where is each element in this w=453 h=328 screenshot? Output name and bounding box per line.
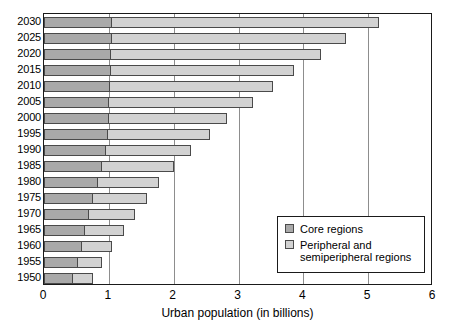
- bar-segment-peripheral: [110, 65, 294, 76]
- bar-segment-peripheral: [88, 209, 135, 220]
- bar-row: [44, 97, 253, 108]
- bar-segment-core: [44, 257, 78, 268]
- y-tick-label-2030: 2030: [0, 16, 41, 27]
- y-tick-label-1960: 1960: [0, 240, 41, 251]
- bar-row: [44, 273, 93, 284]
- bar-segment-peripheral: [110, 49, 321, 60]
- bar-segment-core: [44, 113, 109, 124]
- x-tick-label-4: 4: [299, 288, 306, 302]
- bar-segment-core: [44, 145, 106, 156]
- y-tick-label-2010: 2010: [0, 80, 41, 91]
- bar-row: [44, 17, 379, 28]
- x-tick-label-1: 1: [104, 288, 111, 302]
- bar-segment-peripheral: [77, 257, 103, 268]
- bar-row: [44, 257, 102, 268]
- bar-row: [44, 161, 174, 172]
- x-tick-label-6: 6: [429, 288, 436, 302]
- bar-segment-peripheral: [108, 97, 252, 108]
- y-tick-label-1975: 1975: [0, 192, 41, 203]
- bar-segment-peripheral: [109, 81, 273, 92]
- y-tick-label-1950: 1950: [0, 272, 41, 283]
- bar-segment-peripheral: [72, 273, 92, 284]
- bar-row: [44, 113, 227, 124]
- bar-segment-peripheral: [105, 145, 192, 156]
- bar-row: [44, 65, 294, 76]
- legend-label: Peripheral and semiperipheral regions: [300, 239, 411, 263]
- bar-row: [44, 225, 124, 236]
- y-axis-labels: 1950195519601965197019751980198519901995…: [0, 13, 41, 285]
- bar-row: [44, 193, 147, 204]
- chart-container: 1950195519601965197019751980198519901995…: [0, 0, 453, 328]
- legend-item: Peripheral and semiperipheral regions: [285, 239, 424, 263]
- y-tick-label-2025: 2025: [0, 32, 41, 43]
- y-tick-label-1980: 1980: [0, 176, 41, 187]
- legend-item: Core regions: [285, 223, 424, 235]
- legend-label: Core regions: [300, 223, 363, 235]
- bar-row: [44, 177, 159, 188]
- bar-segment-core: [44, 49, 111, 60]
- bar-segment-peripheral: [107, 129, 210, 140]
- x-axis-title: Urban population (in billions): [43, 306, 432, 320]
- bar-segment-peripheral: [97, 177, 159, 188]
- bar-segment-peripheral: [108, 113, 227, 124]
- y-tick-label-2000: 2000: [0, 112, 41, 123]
- y-tick-label-1990: 1990: [0, 144, 41, 155]
- bar-segment-core: [44, 225, 85, 236]
- bar-segment-core: [44, 65, 111, 76]
- bar-segment-peripheral: [92, 193, 147, 204]
- bar-segment-peripheral: [111, 33, 346, 44]
- bar-segment-core: [44, 273, 73, 284]
- bar-segment-peripheral: [111, 17, 379, 28]
- bar-segment-core: [44, 209, 89, 220]
- bar-segment-core: [44, 193, 93, 204]
- x-tick-label-3: 3: [234, 288, 241, 302]
- bar-segment-core: [44, 17, 112, 28]
- x-tick-label-0: 0: [40, 288, 47, 302]
- y-tick-label-1970: 1970: [0, 208, 41, 219]
- bar-segment-peripheral: [101, 161, 173, 172]
- bar-row: [44, 49, 321, 60]
- x-axis-labels: 0123456: [43, 288, 432, 304]
- legend-swatch-periph: [285, 240, 294, 249]
- legend-swatch-core: [285, 224, 294, 233]
- bar-row: [44, 129, 210, 140]
- bar-row: [44, 81, 273, 92]
- bar-row: [44, 241, 112, 252]
- bar-segment-core: [44, 97, 109, 108]
- bar-segment-core: [44, 177, 98, 188]
- bar-segment-peripheral: [81, 241, 112, 252]
- legend: Core regionsPeripheral and semiperiphera…: [277, 216, 425, 273]
- bar-row: [44, 209, 135, 220]
- bar-row: [44, 33, 346, 44]
- y-tick-label-1965: 1965: [0, 224, 41, 235]
- bar-segment-peripheral: [84, 225, 123, 236]
- x-tick-label-2: 2: [169, 288, 176, 302]
- y-tick-label-1985: 1985: [0, 160, 41, 171]
- y-tick-label-2005: 2005: [0, 96, 41, 107]
- bar-segment-core: [44, 81, 110, 92]
- bar-segment-core: [44, 33, 112, 44]
- y-tick-label-1995: 1995: [0, 128, 41, 139]
- x-tick-label-5: 5: [364, 288, 371, 302]
- bar-segment-core: [44, 241, 82, 252]
- bar-segment-core: [44, 129, 108, 140]
- bar-segment-core: [44, 161, 102, 172]
- bar-row: [44, 145, 191, 156]
- y-tick-label-2020: 2020: [0, 48, 41, 59]
- y-tick-label-1955: 1955: [0, 256, 41, 267]
- y-tick-label-2015: 2015: [0, 64, 41, 75]
